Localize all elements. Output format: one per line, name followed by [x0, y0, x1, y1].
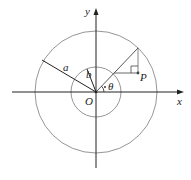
x-axis-arrow-icon — [177, 90, 184, 95]
y-axis-label: y — [84, 5, 90, 17]
y-axis-arrow-icon — [94, 8, 99, 15]
theta-ray — [96, 48, 138, 92]
origin-dot — [95, 91, 98, 94]
inner-radius-label: b — [86, 68, 92, 80]
theta-label: θ — [108, 80, 114, 92]
right-angle-marker — [131, 66, 138, 73]
theta-dot — [104, 86, 106, 88]
outer-radius-label: a — [63, 61, 69, 73]
point-p-label: P — [139, 71, 147, 83]
point-p-dot — [137, 72, 140, 75]
theta-arc — [102, 86, 104, 92]
diagram-svg: y x O a b θ P — [0, 0, 191, 180]
x-axis-label: x — [176, 95, 182, 107]
origin-label: O — [85, 95, 93, 107]
ellipse-parametric-diagram: y x O a b θ P — [0, 0, 191, 180]
